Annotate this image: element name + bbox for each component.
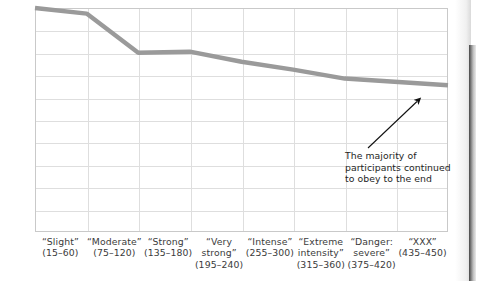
x-label-line: (255–300): [245, 247, 294, 258]
x-label-line: (15–60): [36, 247, 85, 258]
x-tick-label: “Moderate” (75–120): [86, 236, 143, 281]
x-label-line: “Moderate”: [87, 236, 142, 247]
x-label-line: intensity”: [296, 247, 345, 258]
page-edge-dark: [469, 45, 476, 281]
x-label-line: (435–450): [398, 247, 447, 258]
x-label-line: “Extreme: [296, 236, 345, 247]
x-tick-label: “Strong” (135–180): [143, 236, 194, 281]
chart-figure: 100% 90 80 70 60 50 40 30 20 10 0: [0, 0, 481, 281]
x-label-line: “Intense”: [245, 236, 294, 247]
x-label-line: (135–180): [144, 247, 193, 258]
annotation-line-3: to obey to the end: [345, 173, 460, 185]
x-tick-label: “Extreme intensity” (315–360): [295, 236, 346, 281]
x-axis: “Slight” (15–60) “Moderate” (75–120) “St…: [35, 236, 448, 281]
annotation-line-1: The majority of: [345, 150, 460, 162]
x-tick-label: “Danger: severe” (375–420): [346, 236, 397, 281]
x-label-line: “XXX”: [398, 236, 447, 247]
x-label-line: strong”: [195, 247, 244, 258]
annotation-line-2: participants continued: [345, 162, 460, 174]
x-tick-label: “XXX” (435–450): [397, 236, 448, 281]
x-label-line: severe”: [347, 247, 396, 258]
data-series-line: [35, 8, 448, 232]
x-label-line: “Strong”: [144, 236, 193, 247]
x-label-line: “Very: [195, 236, 244, 247]
x-label-line: (315–360): [296, 259, 345, 270]
x-label-line: “Danger:: [347, 236, 396, 247]
x-label-line: “Slight”: [36, 236, 85, 247]
x-label-line: (195–240): [195, 259, 244, 270]
x-tick-label: “Very strong” (195–240): [194, 236, 245, 281]
x-tick-label: “Intense” (255–300): [244, 236, 295, 281]
x-label-line: (75–120): [87, 247, 142, 258]
x-tick-label: “Slight” (15–60): [35, 236, 86, 281]
annotation-text: The majority of participants continued t…: [345, 150, 460, 185]
x-label-line: (375–420): [347, 259, 396, 270]
